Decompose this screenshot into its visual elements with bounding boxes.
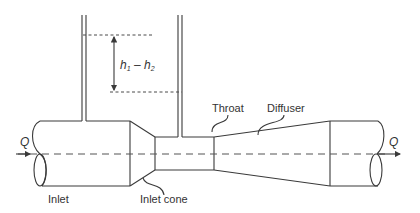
inlet-cone-label: Inlet cone xyxy=(140,193,188,205)
flow-in-label: Q xyxy=(20,135,29,149)
venturi-meter-diagram: Q Q Inlet Inlet cone Throat Diffuser h1 … xyxy=(0,0,420,213)
throat-label: Throat xyxy=(212,102,244,114)
throat-leader xyxy=(212,115,228,132)
right-manometer-tube xyxy=(178,15,182,137)
inlet-label: Inlet xyxy=(48,193,69,205)
diffuser-label: Diffuser xyxy=(267,102,305,114)
flow-out-label: Q xyxy=(389,135,398,149)
left-manometer-tube xyxy=(82,15,86,121)
diffuser-leader xyxy=(258,115,284,135)
head-difference-label: h1 – h2 xyxy=(120,58,155,72)
